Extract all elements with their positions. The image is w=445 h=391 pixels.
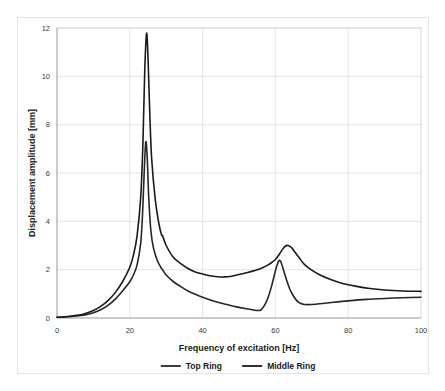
y-tick-label: 8 <box>46 120 50 129</box>
y-tick-label: 2 <box>46 265 50 274</box>
chart-figure: 024681012020406080100Frequency of excita… <box>0 0 445 391</box>
legend-label: Top Ring <box>186 361 222 371</box>
x-tick-label: 40 <box>198 326 206 335</box>
x-tick-label: 80 <box>344 326 352 335</box>
x-tick-label: 0 <box>55 326 59 335</box>
x-tick-label: 20 <box>126 326 134 335</box>
legend-item[interactable]: Middle Ring <box>242 361 315 371</box>
x-tick-label: 60 <box>271 326 279 335</box>
y-tick-label: 0 <box>46 314 50 323</box>
y-tick-label: 12 <box>42 24 50 33</box>
y-tick-label: 6 <box>46 169 50 178</box>
chart-canvas: 024681012020406080100Frequency of excita… <box>0 0 445 391</box>
y-tick-label: 4 <box>46 217 50 226</box>
series-line-middle-ring <box>57 33 421 317</box>
legend-label: Middle Ring <box>267 361 315 371</box>
legend-item[interactable]: Top Ring <box>161 361 222 371</box>
series-line-top-ring <box>57 141 421 317</box>
y-axis-title: Displacement amplitude [mm] <box>27 109 37 237</box>
y-tick-label: 10 <box>42 72 50 81</box>
x-tick-label: 100 <box>415 326 428 335</box>
x-axis-title: Frequency of excitation [Hz] <box>179 343 300 353</box>
